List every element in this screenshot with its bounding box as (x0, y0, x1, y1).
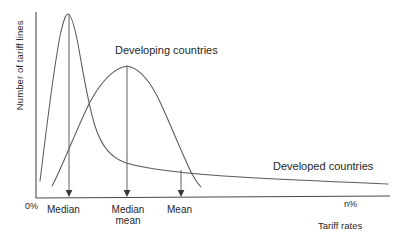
marker-median-mean-developing (124, 66, 131, 197)
tick-label-median-mean-line2: mean (106, 215, 150, 226)
y-axis-title: Number of tariff lines (15, 17, 26, 113)
x-axis-start-label: 0% (25, 201, 38, 211)
tariff-distribution-chart: Number of tariff lines Developing countr… (0, 0, 403, 245)
x-axis-line (36, 196, 390, 198)
x-axis-end-label: n% (344, 199, 357, 209)
developed-countries-label: Developed countries (273, 160, 373, 172)
tick-label-mean: Mean (167, 204, 192, 215)
developing-countries-label: Developing countries (115, 44, 218, 56)
marker-mean-developed (178, 170, 185, 197)
tick-label-median-mean-line1: Median (106, 204, 150, 215)
x-axis-title: Tariff rates (318, 221, 362, 232)
marker-median-developed (66, 14, 73, 197)
tick-label-median: Median (47, 204, 80, 215)
tick-label-median-mean: Median mean (106, 204, 150, 226)
